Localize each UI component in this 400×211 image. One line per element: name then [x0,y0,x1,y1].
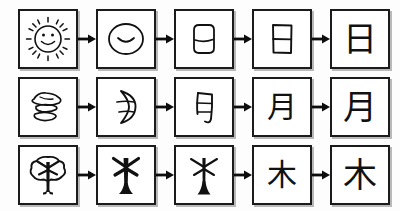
cell-moon-stage-1 [18,77,78,137]
arrow-slot [312,77,330,137]
sun-smiley-pictograph-icon [22,13,74,65]
evolution-row-tree: 木 木 [0,144,400,206]
cell-sun-stage-1 [18,9,78,69]
row-lead-spacer [0,77,18,137]
cell-sun-stage-2 [96,9,156,69]
arrow-right-icon [312,102,330,112]
arrow-slot [312,145,330,205]
sun-squared-glyph-icon [256,13,308,65]
arrow-right-icon [156,170,174,180]
arrow-slot [156,145,174,205]
arrow-right-icon [156,34,174,44]
sun-rounded-square-icon [178,13,230,65]
tree-modern-kanji-icon: 木 [343,158,377,192]
sun-circle-outline-icon [100,13,152,65]
moon-early-script-icon [178,81,230,133]
arrow-right-icon [78,102,96,112]
arrow-right-icon [156,102,174,112]
arrow-right-icon [234,170,252,180]
cell-tree-stage-1 [18,145,78,205]
arrow-slot [312,9,330,69]
moon-modern-kanji-icon: 月 [343,90,377,124]
arrow-slot [234,77,252,137]
cell-moon-stage-5: 月 [330,77,390,137]
tree-bold-seal-script-icon [100,149,152,201]
arrow-slot [234,145,252,205]
cell-tree-stage-3 [174,145,234,205]
arrow-slot [78,145,96,205]
arrow-right-icon [78,170,96,180]
cell-tree-stage-4: 木 [252,145,312,205]
moon-clouds-pictograph-icon [22,81,74,133]
cell-sun-stage-5: 日 [330,9,390,69]
cell-sun-stage-3 [174,9,234,69]
row-lead-spacer [0,145,18,205]
tree-clerical-script-icon [178,149,230,201]
evolution-row-sun: 日 [0,8,400,70]
arrow-slot [234,9,252,69]
arrow-slot [78,9,96,69]
arrow-right-icon [312,34,330,44]
arrow-right-icon [234,102,252,112]
tree-brush-kanji-icon: 木 [267,160,297,190]
moon-crescent-outline-icon [100,81,152,133]
character-evolution-chart: 日 [0,0,400,211]
cell-tree-stage-2 [96,145,156,205]
cell-moon-stage-3 [174,77,234,137]
evolution-row-moon: 月 月 [0,76,400,138]
cell-moon-stage-4: 月 [252,77,312,137]
moon-seal-script-icon: 月 [267,92,297,122]
sun-modern-kanji-icon: 日 [343,22,377,56]
arrow-slot [156,9,174,69]
arrow-right-icon [78,34,96,44]
arrow-right-icon [234,34,252,44]
cell-sun-stage-4 [252,9,312,69]
arrow-slot [78,77,96,137]
cell-tree-stage-5: 木 [330,145,390,205]
row-lead-spacer [0,9,18,69]
arrow-slot [156,77,174,137]
arrow-right-icon [312,170,330,180]
tree-canopy-pictograph-icon [22,149,74,201]
cell-moon-stage-2 [96,77,156,137]
